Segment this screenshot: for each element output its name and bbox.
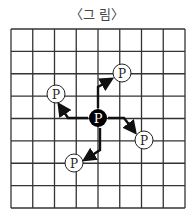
particle-label: P [140, 134, 148, 148]
arrow-up-right [98, 80, 110, 108]
arrow-left [60, 106, 88, 118]
particle-label: P [52, 88, 60, 102]
arrow-right [108, 118, 134, 131]
particle-label: P [70, 157, 78, 171]
particle-label: P [118, 67, 126, 81]
svg-text:P: P [94, 111, 103, 126]
center-particle: P [89, 109, 107, 127]
diagram-canvas: PPPP P [0, 0, 194, 219]
